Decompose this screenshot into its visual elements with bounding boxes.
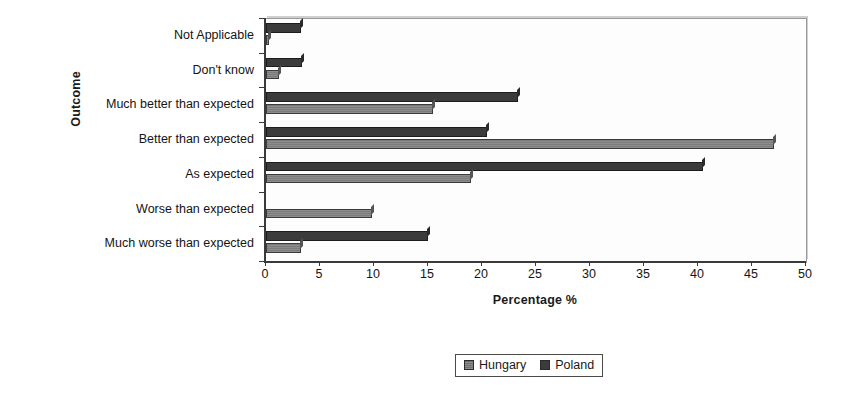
x-axis-tick [643,261,644,266]
y-axis-tick-labels: Not ApplicableDon't knowMuch better than… [40,18,260,261]
bar-group [266,88,806,123]
x-axis-tick-label: 20 [461,267,501,281]
bar-hungary [266,70,279,80]
x-axis-tick [265,261,266,266]
legend-swatch-poland [540,360,550,370]
x-axis-tick [373,261,374,266]
y-axis-tick-label: As expected [185,157,254,192]
bar-poland [266,92,518,102]
x-axis-tick [697,261,698,266]
x-axis-tick-label: 5 [299,267,339,281]
x-axis-tick-label: 50 [785,267,825,281]
bar-hungary [266,139,774,149]
x-axis-tick [589,261,590,266]
bar-poland [266,127,487,137]
y-axis-tick-label: Much better than expected [106,87,254,122]
plot-area [265,18,807,263]
bar-group [266,54,806,89]
y-axis-tick-label: Don't know [193,53,254,88]
bar-poland [266,23,301,33]
y-axis-tick-label: Much worse than expected [105,226,254,261]
bar-chart: Outcome Not ApplicableDon't knowMuch bet… [0,0,847,410]
bar-group [266,193,806,228]
bar-poland [266,231,428,241]
bar-poland [266,58,302,68]
bar-hungary [266,243,301,253]
bar-group [266,19,806,54]
x-axis-title: Percentage % [265,293,805,307]
bar-poland [266,162,703,172]
x-axis-tick [319,261,320,266]
bar-hungary [266,174,471,184]
bar-group [266,158,806,193]
y-axis-tick [259,192,265,193]
y-axis-tick [259,53,265,54]
legend-label-hungary: Hungary [479,358,526,372]
bar-hungary [266,104,433,114]
y-axis-tick [259,122,265,123]
legend-item-poland: Poland [540,358,594,372]
bar-group [266,123,806,158]
legend-swatch-hungary [464,360,474,370]
legend-item-hungary: Hungary [464,358,526,372]
y-axis-tick [259,87,265,88]
y-axis-tick [259,226,265,227]
y-axis-tick [259,18,265,19]
bar-group [266,227,806,262]
y-axis-tick [259,157,265,158]
bar-hungary [266,209,372,219]
y-axis-tick [259,261,265,262]
x-axis-tick [481,261,482,266]
y-axis-tick-label: Not Applicable [174,18,254,53]
x-axis-tick-label: 10 [353,267,393,281]
x-axis-tick [427,261,428,266]
x-axis-tick [535,261,536,266]
x-axis-tick-label: 40 [677,267,717,281]
x-axis-tick-label: 35 [623,267,663,281]
x-axis-tick-label: 25 [515,267,555,281]
chart-legend: Hungary Poland [455,354,603,377]
y-axis-tick-label: Better than expected [139,122,254,157]
x-axis-tick [751,261,752,266]
y-axis-tick-label: Worse than expected [136,192,254,227]
x-axis-line: 05101520253035404550 [265,261,805,263]
legend-label-poland: Poland [555,358,594,372]
bar-hungary [266,35,269,45]
x-axis-tick-label: 30 [569,267,609,281]
x-axis-tick-label: 15 [407,267,447,281]
x-axis-tick-label: 45 [731,267,771,281]
x-axis-tick [805,261,806,266]
x-axis-tick-label: 0 [245,267,285,281]
